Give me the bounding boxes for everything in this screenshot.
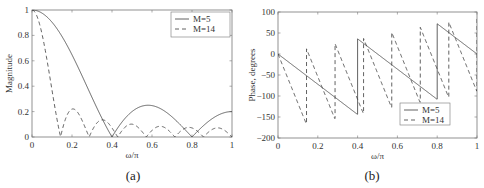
legend: M=5M=14 (400, 103, 450, 125)
panel-caption: (b) (364, 168, 379, 183)
y-tick-label: −100 (256, 91, 275, 101)
y-tick-label: −50 (261, 70, 276, 80)
legend-label: M=14 (422, 115, 445, 125)
y-tick-label: 50 (266, 28, 276, 38)
x-axis-label: ω/π (371, 151, 384, 161)
x-tick-label: 0.2 (66, 140, 77, 150)
x-tick-label: 0 (30, 140, 35, 150)
y-tick-label: 0.2 (18, 107, 29, 117)
figure: 00.20.40.60.8100.20.40.60.81ω/πMagnitude… (0, 0, 484, 188)
y-tick-label: 1 (25, 5, 30, 15)
x-tick-label: 0 (276, 141, 281, 151)
y-tick-label: −150 (256, 112, 275, 122)
chart-panel-magnitude: 00.20.40.60.8100.20.40.60.81ω/πMagnitude… (4, 5, 234, 183)
series-line-m5 (278, 24, 477, 114)
x-tick-label: 1 (230, 140, 235, 150)
legend-label: M=14 (193, 24, 216, 34)
y-tick-label: 0.4 (18, 81, 30, 91)
x-tick-label: 0.8 (432, 141, 444, 151)
y-tick-label: −200 (256, 133, 275, 143)
x-tick-label: 0.8 (186, 140, 198, 150)
y-tick-label: 100 (262, 7, 276, 17)
x-tick-label: 0.4 (106, 140, 118, 150)
y-tick-label: 0.8 (18, 30, 30, 40)
chart-panel-phase: 00.20.40.60.81−200−150−100−50050100ω/πPh… (247, 7, 479, 183)
x-tick-label: 0.6 (146, 140, 158, 150)
y-axis-label: Phase, degrees (247, 48, 257, 101)
x-tick-label: 0.2 (312, 141, 323, 151)
x-axis-label: ω/π (126, 150, 139, 160)
x-tick-label: 1 (475, 141, 480, 151)
y-tick-label: 0.6 (18, 56, 30, 66)
legend-label: M=5 (193, 14, 211, 24)
legend: M=5M=14 (171, 12, 230, 37)
legend-label: M=5 (422, 105, 440, 115)
x-tick-label: 0.4 (352, 141, 364, 151)
y-tick-label: 0 (271, 49, 276, 59)
y-axis-label: Magnitude (4, 54, 14, 93)
x-tick-label: 0.6 (392, 141, 404, 151)
panel-caption: (a) (126, 168, 140, 183)
y-tick-label: 0 (25, 132, 30, 142)
